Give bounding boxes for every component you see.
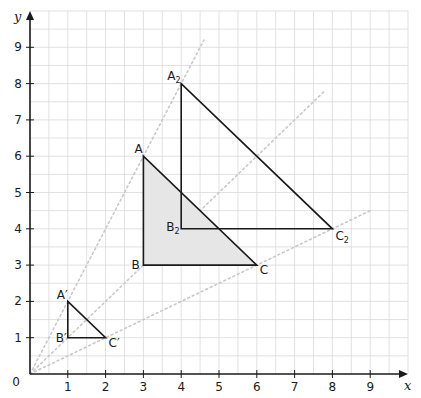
- x-tick-label: 3: [140, 380, 148, 394]
- x-tick-label: 7: [291, 380, 299, 394]
- subscript: 2: [174, 227, 179, 236]
- x-tick-label: 9: [366, 380, 374, 394]
- vertex-label-b: B: [131, 258, 139, 272]
- y-tick-label: 2: [14, 294, 22, 308]
- y-tick-label: 7: [14, 113, 22, 127]
- vertex-label-c: C: [260, 263, 268, 277]
- x-tick-label: 4: [177, 380, 185, 394]
- vertex-label-a-prime: A′: [57, 288, 68, 302]
- y-tick-label: 8: [14, 77, 22, 91]
- x-tick-label: 6: [253, 380, 261, 394]
- y-tick-label: 1: [14, 331, 22, 345]
- x-tick-label: 8: [329, 380, 337, 394]
- y-tick-label: 5: [14, 186, 22, 200]
- vertex-label-a2: A2: [167, 69, 180, 85]
- y-tick-label: 4: [14, 222, 22, 236]
- x-tick-label: 1: [64, 380, 72, 394]
- subscript: 2: [344, 236, 349, 245]
- y-tick-label: 9: [14, 40, 22, 54]
- axes: xy: [13, 9, 412, 393]
- vertex-label-b-prime: B′: [56, 331, 67, 345]
- vertex-label-c2: C2: [335, 229, 348, 245]
- origin-label: 0: [12, 375, 20, 389]
- y-tick-label: 6: [14, 149, 22, 163]
- y-tick-label: 3: [14, 258, 22, 272]
- y-axis-arrow-icon: [26, 11, 34, 20]
- x-tick-label: 2: [102, 380, 110, 394]
- x-tick-label: 5: [215, 380, 223, 394]
- subscript: 2: [175, 76, 180, 85]
- y-axis-label: y: [13, 9, 22, 24]
- vertex-label-a: A: [134, 142, 143, 156]
- vertex-label-c-prime: C′: [109, 336, 120, 350]
- x-axis-label: x: [404, 378, 412, 393]
- coordinate-grid-diagram: xy 1234567891234567890 ABCA′B′C′A2B2C2: [0, 0, 421, 398]
- x-axis-arrow-icon: [399, 370, 408, 378]
